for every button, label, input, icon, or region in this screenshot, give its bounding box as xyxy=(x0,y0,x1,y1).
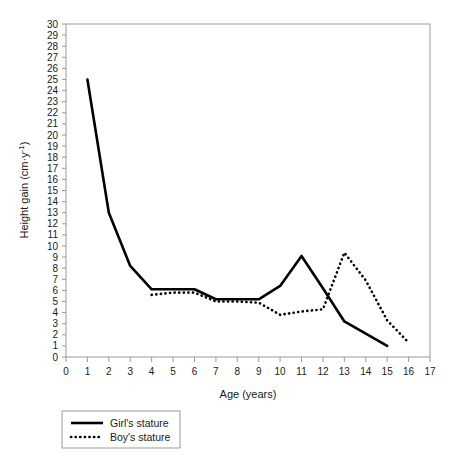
x-tick-label: 17 xyxy=(424,366,436,377)
y-tick-label: 30 xyxy=(47,19,59,30)
x-tick-label: 6 xyxy=(192,366,198,377)
x-tick-label: 10 xyxy=(275,366,287,377)
x-tick-label: 5 xyxy=(170,366,176,377)
y-tick-label: 14 xyxy=(47,196,59,207)
y-tick-label: 16 xyxy=(47,174,59,185)
x-tick-label: 11 xyxy=(296,366,307,377)
x-tick-label: 8 xyxy=(235,366,241,377)
y-tick-label: 13 xyxy=(47,207,59,218)
x-tick-label: 4 xyxy=(149,366,155,377)
y-tick-label: 4 xyxy=(52,307,58,318)
y-tick-label: 7 xyxy=(52,274,58,285)
y-axis-title-group: Height gain (cm·y-1) xyxy=(17,142,30,239)
y-tick-label: 15 xyxy=(47,185,59,196)
y-tick-label: 9 xyxy=(52,252,58,263)
y-tick-label: 5 xyxy=(52,296,58,307)
legend-label-girls-stature: Girl's stature xyxy=(110,417,169,429)
y-tick-label: 23 xyxy=(47,96,59,107)
y-axis-ticks xyxy=(62,24,66,357)
x-tick-label: 15 xyxy=(382,366,394,377)
x-tick-label: 1 xyxy=(85,366,91,377)
x-tick-label: 14 xyxy=(360,366,372,377)
y-tick-label: 24 xyxy=(47,85,59,96)
y-tick-label: 1 xyxy=(52,340,58,351)
y-tick-label: 25 xyxy=(47,74,59,85)
y-axis-title-prefix: Height gain (cm·y xyxy=(18,152,30,239)
y-tick-label: 18 xyxy=(47,152,59,163)
y-tick-label: 26 xyxy=(47,63,59,74)
legend-label-boys-stature: Boy's stature xyxy=(110,431,171,443)
y-tick-label: 12 xyxy=(47,218,59,229)
x-axis-tick-labels: 01234567891011121314151617 xyxy=(63,366,436,377)
y-tick-label: 20 xyxy=(47,130,59,141)
x-tick-label: 7 xyxy=(213,366,219,377)
y-tick-label: 3 xyxy=(52,318,58,329)
y-tick-label: 29 xyxy=(47,30,59,41)
y-tick-label: 21 xyxy=(47,118,59,129)
x-axis-ticks xyxy=(66,357,430,362)
x-tick-label: 12 xyxy=(317,366,329,377)
y-tick-label: 0 xyxy=(52,352,58,363)
y-tick-label: 11 xyxy=(48,229,59,240)
series-line-girls-stature xyxy=(87,80,387,346)
x-axis-title: Age (years) xyxy=(220,388,277,400)
plot-area-border xyxy=(66,24,430,357)
x-tick-label: 0 xyxy=(63,366,69,377)
y-tick-label: 27 xyxy=(47,52,59,63)
legend: Girl's stature Boy's stature xyxy=(62,411,180,448)
y-tick-label: 22 xyxy=(47,107,59,118)
y-axis-title-suffix: ) xyxy=(18,142,30,146)
plot-frame xyxy=(66,24,430,357)
y-tick-label: 2 xyxy=(52,329,58,340)
y-tick-label: 8 xyxy=(52,263,58,274)
y-tick-label: 6 xyxy=(52,285,58,296)
y-tick-label: 19 xyxy=(47,141,59,152)
data-series-group xyxy=(87,80,408,346)
chart-figure: 0123456789101112131415161718192021222324… xyxy=(0,0,453,463)
x-tick-label: 13 xyxy=(339,366,351,377)
y-axis-title: Height gain (cm·y-1) xyxy=(17,142,30,239)
x-tick-label: 9 xyxy=(256,366,262,377)
x-tick-label: 16 xyxy=(403,366,415,377)
y-tick-label: 28 xyxy=(47,41,59,52)
series-line-boys-stature xyxy=(152,253,409,343)
y-axis-tick-labels: 0123456789101112131415161718192021222324… xyxy=(47,19,59,363)
x-tick-label: 2 xyxy=(106,366,112,377)
y-tick-label: 17 xyxy=(47,163,59,174)
x-tick-label: 3 xyxy=(127,366,133,377)
chart-svg: 0123456789101112131415161718192021222324… xyxy=(0,0,453,463)
y-tick-label: 10 xyxy=(47,241,59,252)
